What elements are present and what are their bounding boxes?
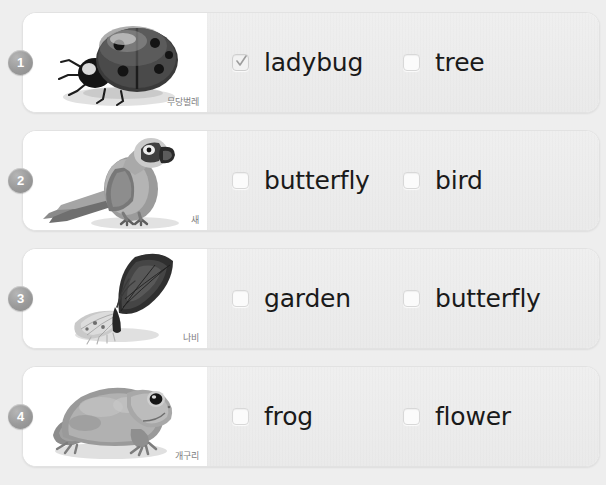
answer-option[interactable]: garden: [232, 249, 351, 348]
row-card: 무당벌레 ladybug: [22, 12, 600, 113]
checkbox-4-flower[interactable]: [403, 408, 420, 425]
photo-caption: 무당벌레: [167, 95, 199, 108]
photo-panel: 새: [23, 131, 207, 230]
photo-caption: 개구리: [175, 449, 199, 462]
answer-panel: ladybug tree: [207, 13, 599, 112]
answer-panel: butterfly bird: [207, 131, 599, 230]
parrot-photo: [23, 131, 207, 230]
checkbox-1-tree[interactable]: [403, 54, 420, 71]
quiz-row: 1: [22, 12, 600, 113]
option-label: garden: [264, 286, 351, 311]
option-label: ladybug: [264, 50, 363, 75]
photo-panel: 무당벌레: [23, 13, 207, 112]
checkbox-3-garden[interactable]: [232, 290, 249, 307]
option-label: flower: [435, 404, 511, 429]
answer-option[interactable]: bird: [403, 131, 483, 230]
quiz-row: 2: [22, 130, 600, 231]
checkbox-1-ladybug[interactable]: [232, 54, 249, 71]
option-label: tree: [435, 50, 485, 75]
row-number-badge: 2: [8, 168, 33, 193]
row-number-badge: 4: [8, 404, 33, 429]
photo-caption: 나비: [183, 331, 199, 344]
option-label: bird: [435, 168, 483, 193]
photo-caption: 새: [191, 213, 199, 226]
option-label: frog: [264, 404, 313, 429]
quiz-row: 4: [22, 366, 600, 467]
photo-panel: 나비: [23, 249, 207, 348]
answer-option[interactable]: butterfly: [232, 131, 370, 230]
row-number-badge: 3: [8, 286, 33, 311]
checkbox-4-frog[interactable]: [232, 408, 249, 425]
row-card: 개구리 frog flo: [22, 366, 600, 467]
row-card: 새 butterfly: [22, 130, 600, 231]
row-card: 나비 garden bu: [22, 248, 600, 349]
quiz-row: 3: [22, 248, 600, 349]
row-number-badge: 1: [8, 50, 33, 75]
answer-panel: frog flower: [207, 367, 599, 466]
answer-option[interactable]: tree: [403, 13, 485, 112]
butterfly-photo: [23, 249, 207, 348]
checkbox-2-butterfly[interactable]: [232, 172, 249, 189]
answer-option[interactable]: frog: [232, 367, 313, 466]
checkmark-icon: [236, 55, 247, 68]
answer-panel: garden butterfly: [207, 249, 599, 348]
checkbox-2-bird[interactable]: [403, 172, 420, 189]
answer-option[interactable]: flower: [403, 367, 511, 466]
checkbox-3-butterfly[interactable]: [403, 290, 420, 307]
quiz-sheet: 1: [0, 0, 606, 485]
option-label: butterfly: [435, 286, 541, 311]
photo-panel: 개구리: [23, 367, 207, 466]
option-label: butterfly: [264, 168, 370, 193]
answer-option[interactable]: ladybug: [232, 13, 363, 112]
answer-option[interactable]: butterfly: [403, 249, 541, 348]
